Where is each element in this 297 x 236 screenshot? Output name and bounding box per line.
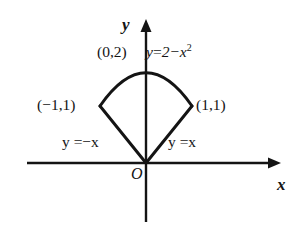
origin-label: O	[131, 166, 143, 182]
figure-canvas	[0, 0, 297, 236]
equation-label-right-line: y =x	[168, 134, 196, 150]
x-axis-arrowhead	[268, 158, 281, 169]
equation-exponent: 2	[187, 42, 192, 53]
point-label-top: (0,2)	[97, 44, 127, 60]
boundary-line-left	[100, 106, 146, 163]
math-figure: y x O (0,2) (−1,1) (1,1) y=2−x2 y =−x y …	[0, 0, 297, 236]
equation-body: 2−x	[162, 43, 187, 60]
equation-label-left-line: y =−x	[62, 134, 99, 150]
y-axis-label: y	[122, 16, 130, 33]
point-label-right: (1,1)	[196, 97, 226, 113]
y-axis-arrowhead	[141, 19, 152, 32]
equation-variable: y	[146, 43, 153, 60]
equation-equals: =	[153, 43, 162, 60]
point-label-left: (−1,1)	[37, 97, 75, 113]
x-axis-label: x	[277, 176, 286, 193]
equation-label-parabola: y=2−x2	[146, 44, 192, 60]
